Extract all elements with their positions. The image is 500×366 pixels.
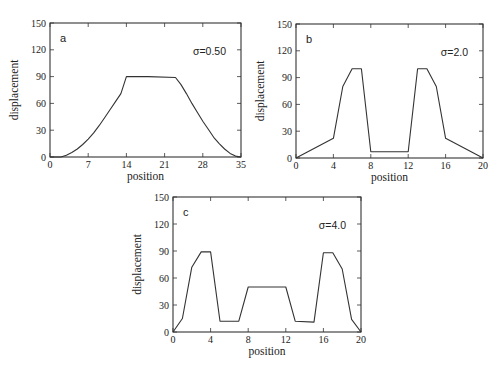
y-tick-label: 0 bbox=[164, 327, 169, 338]
y-tick-label: 30 bbox=[159, 300, 169, 311]
x-tick-label: 0 bbox=[294, 160, 299, 171]
data-line bbox=[296, 69, 483, 158]
sigma-annotation: σ=0.50 bbox=[193, 45, 226, 57]
y-tick-label: 150 bbox=[154, 192, 169, 203]
data-line bbox=[50, 77, 241, 157]
panel-label: a bbox=[60, 32, 67, 44]
y-tick-label: 60 bbox=[159, 273, 169, 284]
plot-frame bbox=[50, 23, 241, 157]
x-tick-label: 12 bbox=[403, 160, 413, 171]
x-tick-label: 0 bbox=[171, 334, 176, 345]
y-tick-label: 90 bbox=[282, 72, 292, 83]
x-tick-label: 21 bbox=[160, 159, 170, 170]
x-tick-label: 4 bbox=[208, 334, 213, 345]
y-axis-label: displacement bbox=[131, 233, 144, 294]
y-axis-label: displacement bbox=[8, 59, 21, 120]
x-tick-label: 4 bbox=[331, 160, 336, 171]
panel-label: c bbox=[183, 206, 189, 218]
x-tick-label: 0 bbox=[48, 159, 53, 170]
y-tick-label: 30 bbox=[282, 126, 292, 137]
x-tick-label: 35 bbox=[236, 159, 246, 170]
x-tick-label: 20 bbox=[356, 334, 366, 345]
x-tick-label: 12 bbox=[281, 334, 291, 345]
chart-c: 0481216200306090120150positiondisplaceme… bbox=[131, 192, 366, 359]
chart-a: 07142128350306090120150positiondisplacem… bbox=[8, 18, 246, 184]
plot-frame bbox=[173, 197, 361, 332]
y-tick-label: 90 bbox=[159, 246, 169, 257]
y-tick-label: 120 bbox=[154, 219, 169, 230]
data-line bbox=[173, 252, 361, 332]
y-tick-label: 120 bbox=[277, 45, 292, 56]
y-tick-label: 120 bbox=[31, 44, 46, 55]
figure: 07142128350306090120150positiondisplacem… bbox=[0, 0, 500, 366]
y-tick-label: 0 bbox=[41, 152, 46, 163]
y-tick-label: 0 bbox=[287, 153, 292, 164]
chart-b: 0481216200306090120150positiondisplaceme… bbox=[254, 19, 488, 185]
y-tick-label: 150 bbox=[31, 18, 46, 29]
panel-label: b bbox=[306, 33, 312, 45]
y-tick-label: 60 bbox=[282, 99, 292, 110]
y-tick-label: 60 bbox=[36, 98, 46, 109]
x-tick-label: 20 bbox=[478, 160, 488, 171]
x-tick-label: 7 bbox=[86, 159, 91, 170]
x-tick-label: 28 bbox=[198, 159, 208, 170]
x-tick-label: 8 bbox=[246, 334, 251, 345]
plot-frame bbox=[296, 24, 483, 158]
sigma-annotation: σ=2.0 bbox=[441, 46, 468, 58]
x-axis-label: position bbox=[127, 170, 164, 183]
x-tick-label: 16 bbox=[441, 160, 451, 171]
x-tick-label: 16 bbox=[318, 334, 328, 345]
y-tick-label: 150 bbox=[277, 19, 292, 30]
y-tick-label: 90 bbox=[36, 71, 46, 82]
x-axis-label: position bbox=[371, 171, 408, 184]
y-tick-label: 30 bbox=[36, 125, 46, 136]
y-axis-label: displacement bbox=[254, 60, 267, 121]
x-tick-label: 14 bbox=[121, 159, 131, 170]
sigma-annotation: σ=4.0 bbox=[319, 219, 346, 231]
x-tick-label: 8 bbox=[368, 160, 373, 171]
x-axis-label: position bbox=[248, 345, 285, 358]
